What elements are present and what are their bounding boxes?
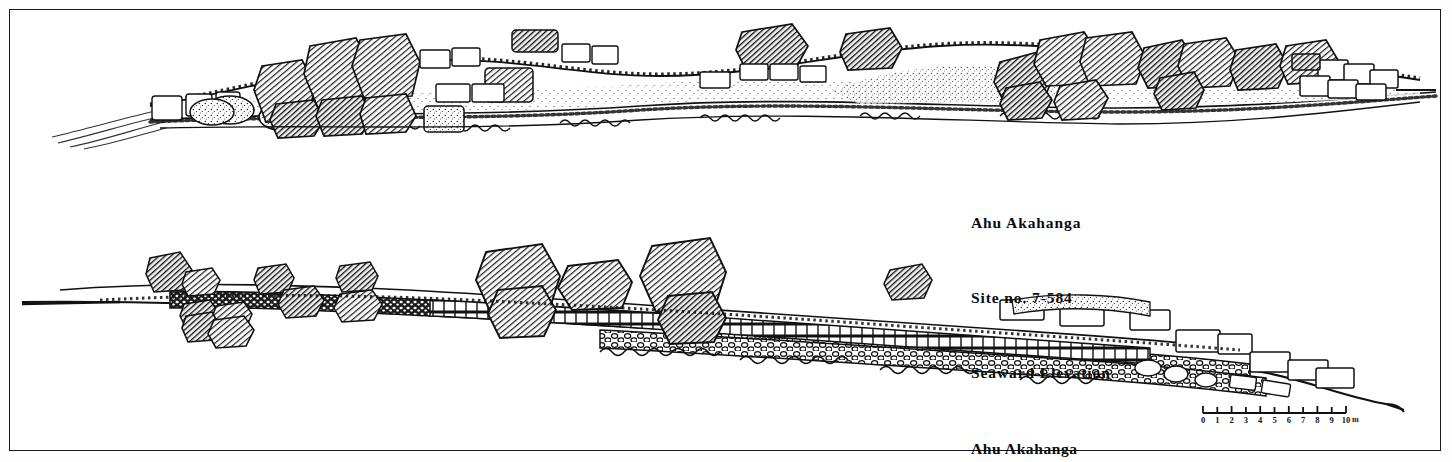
scale-tick-1: 1 <box>1215 415 1219 425</box>
caption-landward-title: Ahu Akahanga <box>971 439 1118 459</box>
caption-landward: Ahu Akahanga Site no. 7-584 Landward Ele… <box>971 400 1118 462</box>
scale-tick-4: 4 <box>1258 415 1262 425</box>
caption-seaward: Ahu Akahanga Site no. 7-584 Seaward Elev… <box>971 160 1111 435</box>
scale-bar-graphic <box>1200 404 1360 418</box>
caption-seaward-site: Site no. 7-584 <box>971 285 1111 310</box>
drawing-sheet: Ahu Akahanga Site no. 7-584 Seaward Elev… <box>0 0 1452 462</box>
scale-tick-8: 8 <box>1315 415 1319 425</box>
scale-tick-2: 2 <box>1229 415 1233 425</box>
sheet-border <box>9 9 1441 451</box>
caption-seaward-view: Seaward Elevation <box>971 360 1111 385</box>
scale-unit-label: m <box>1352 415 1359 424</box>
scale-tick-3: 3 <box>1244 415 1248 425</box>
scale-tick-9: 9 <box>1330 415 1334 425</box>
scale-tick-0: 0 <box>1201 415 1205 425</box>
scale-tick-6: 6 <box>1287 415 1291 425</box>
scale-bar: 0 1 2 3 4 5 6 7 8 9 10 m <box>1200 404 1360 430</box>
caption-seaward-title: Ahu Akahanga <box>971 210 1111 235</box>
scale-tick-7: 7 <box>1301 415 1305 425</box>
scale-tick-5: 5 <box>1272 415 1276 425</box>
scale-tick-10: 10 <box>1342 415 1351 425</box>
